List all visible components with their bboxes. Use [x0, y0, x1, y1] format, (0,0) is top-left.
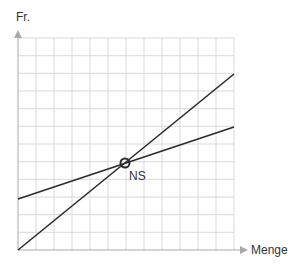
supply-demand-diagram — [0, 0, 306, 268]
grid — [18, 38, 234, 250]
y-axis-label: Fr. — [16, 10, 30, 24]
x-axis-label: Menge — [251, 243, 288, 257]
x-axis-arrow-icon — [240, 246, 248, 254]
y-axis-arrow-icon — [14, 30, 22, 38]
intersection-label: NS — [129, 169, 146, 183]
axes — [18, 34, 240, 250]
